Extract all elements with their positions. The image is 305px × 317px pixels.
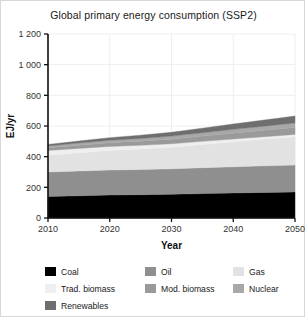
legend-swatch [233, 284, 244, 293]
x-axis-title: Year [161, 240, 182, 251]
legend-item-renewables[interactable]: Renewables [45, 301, 145, 311]
legend-label: Gas [249, 267, 265, 277]
x-tick-label: 2030 [161, 224, 181, 234]
legend-label: Nuclear [249, 284, 279, 294]
y-axis-title: EJ/yr [5, 114, 16, 139]
legend-label: Renewables [61, 301, 108, 311]
area-series-coal [48, 192, 295, 218]
legend-swatch [45, 284, 56, 293]
legend-item-trad-biomass[interactable]: Trad. biomass [45, 284, 145, 294]
y-tick-label: 800 [26, 91, 41, 101]
legend-item-coal[interactable]: Coal [45, 267, 145, 277]
legend-item-gas[interactable]: Gas [233, 267, 295, 277]
legend-swatch [45, 301, 56, 310]
legend-swatch [145, 284, 156, 293]
chart-legend: CoalOilGasTrad. biomassMod. biomassNucle… [45, 263, 295, 314]
legend-swatch [145, 267, 156, 276]
y-tick-label: 600 [26, 121, 41, 131]
x-tick-label: 2020 [100, 224, 120, 234]
legend-item-oil[interactable]: Oil [145, 267, 233, 277]
x-tick-label: 2050 [285, 224, 305, 234]
legend-item-nuclear[interactable]: Nuclear [233, 284, 295, 294]
legend-label: Mod. biomass [161, 284, 215, 294]
y-tick-label: 0 [36, 213, 41, 223]
legend-label: Oil [161, 267, 172, 277]
y-tick-label: 400 [26, 152, 41, 162]
stacked-area-chart: 02004006008001 0001 20020102020203020402… [1, 23, 305, 263]
legend-label: Trad. biomass [61, 284, 115, 294]
legend-swatch [45, 267, 56, 276]
legend-item-mod-biomass[interactable]: Mod. biomass [145, 284, 233, 294]
y-tick-label: 1 200 [18, 29, 41, 39]
chart-figure: Global primary energy consumption (SSP2)… [0, 0, 305, 317]
legend-label: Coal [61, 267, 79, 277]
x-tick-label: 2010 [38, 224, 58, 234]
y-tick-label: 200 [26, 183, 41, 193]
x-tick-label: 2040 [223, 224, 243, 234]
legend-swatch [233, 267, 244, 276]
y-tick-label: 1 000 [18, 60, 41, 70]
page-title: Global primary energy consumption (SSP2) [1, 9, 305, 21]
